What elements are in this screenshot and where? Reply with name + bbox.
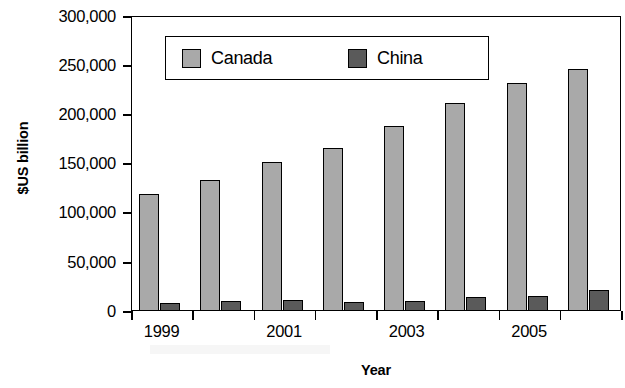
- x-tick-mark: [621, 311, 623, 320]
- bar-canada-2001: [262, 162, 282, 311]
- y-tick-mark: [123, 163, 131, 165]
- bar-canada-2002: [323, 148, 343, 311]
- x-tick-label: 2001: [266, 322, 302, 341]
- legend-label-canada: Canada: [211, 49, 272, 67]
- y-tick-label: 50,000: [0, 253, 116, 272]
- x-tick-label: 2003: [389, 322, 425, 341]
- y-tick-mark: [123, 114, 131, 116]
- y-tick-mark: [123, 311, 131, 313]
- y-tick-label: 150,000: [0, 154, 116, 173]
- x-tick-mark: [192, 311, 194, 320]
- legend-label-china: China: [377, 49, 423, 67]
- x-tick-mark: [560, 311, 562, 320]
- y-tick-mark: [123, 212, 131, 214]
- bar-china-2002: [344, 302, 364, 311]
- bar-china-1999: [160, 303, 180, 311]
- y-tick-mark: [123, 65, 131, 67]
- legend-swatch-china-icon: [348, 49, 367, 68]
- y-tick-mark: [123, 16, 131, 18]
- scan-artifact: [150, 345, 330, 354]
- bar-china-2001: [283, 300, 303, 311]
- x-tick-mark: [315, 311, 317, 320]
- bar-canada-2004: [445, 103, 465, 311]
- x-tick-mark: [376, 311, 378, 320]
- x-tick-mark: [131, 311, 133, 320]
- y-tick-label: 200,000: [0, 105, 116, 124]
- y-axis-tick-labels: 0 50,000 100,000 150,000 200,000 250,000…: [0, 0, 116, 330]
- y-tick-label: 250,000: [0, 56, 116, 75]
- y-tick-mark: [123, 262, 131, 264]
- y-tick-label: 300,000: [0, 7, 116, 26]
- chart-legend: Canada China: [165, 36, 489, 80]
- x-tick-mark: [499, 311, 501, 320]
- x-tick-mark: [437, 311, 439, 320]
- bar-chart-figure: $US billion 0 50,000 100,000 150,000 200…: [0, 0, 625, 388]
- y-tick-label: 0: [0, 302, 116, 321]
- x-tick-label: 1999: [144, 322, 180, 341]
- x-tick-label: 2005: [511, 322, 547, 341]
- legend-entry-canada: Canada: [182, 46, 272, 70]
- x-axis-title: Year: [131, 362, 621, 378]
- bar-china-2004: [466, 297, 486, 311]
- bar-china-2003: [405, 301, 425, 311]
- y-tick-label: 100,000: [0, 203, 116, 222]
- bar-canada-1999: [139, 194, 159, 311]
- bar-china-2000: [221, 301, 241, 311]
- legend-entry-china: China: [348, 46, 423, 70]
- bar-canada-2006: [568, 69, 588, 311]
- bar-canada-2000: [200, 180, 220, 311]
- legend-swatch-canada-icon: [182, 49, 201, 68]
- bar-china-2006: [589, 290, 609, 311]
- bar-canada-2005: [507, 83, 527, 311]
- bar-canada-2003: [384, 126, 404, 311]
- x-tick-mark: [254, 311, 256, 320]
- bar-china-2005: [528, 296, 548, 311]
